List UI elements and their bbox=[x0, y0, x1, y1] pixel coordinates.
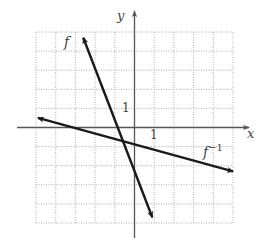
x-axis-label: x bbox=[247, 126, 255, 141]
function-inverse-graph: y x 1 1 f f−1 bbox=[0, 0, 262, 248]
x-tick-label-1: 1 bbox=[150, 128, 158, 142]
f-inverse-label: f−1 bbox=[202, 142, 223, 160]
f-label: f bbox=[63, 34, 72, 50]
f-inverse-label-superscript: −1 bbox=[208, 142, 223, 153]
y-axis-label: y bbox=[116, 8, 125, 23]
y-tick-label-1: 1 bbox=[122, 101, 130, 115]
